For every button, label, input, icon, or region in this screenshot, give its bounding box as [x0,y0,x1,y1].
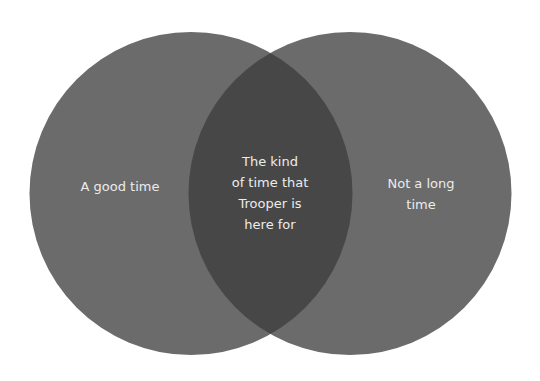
right-label-line-2: time [387,194,454,215]
right-label-line-1: Not a long [387,173,454,194]
intersection-line-4: here for [232,214,309,235]
intersection-label: The kind of time that Trooper is here fo… [232,151,309,235]
intersection-line-3: Trooper is [232,193,309,214]
left-set-label: A good time [81,176,160,197]
intersection-line-2: of time that [232,172,309,193]
intersection-line-1: The kind [232,151,309,172]
left-label-line: A good time [81,176,160,197]
right-set-label: Not a long time [387,173,454,215]
